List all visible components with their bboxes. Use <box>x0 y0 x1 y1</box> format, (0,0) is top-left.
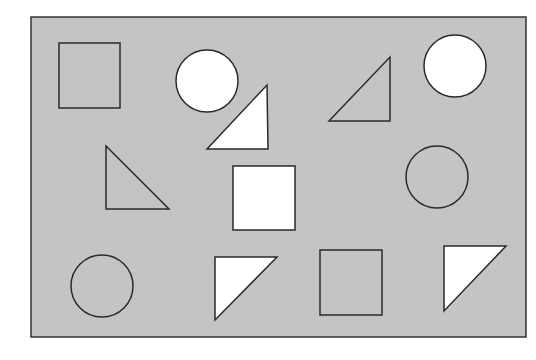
gray-square-square-3 <box>320 250 382 315</box>
white-square-square-2 <box>233 166 295 230</box>
gray-square-square-1 <box>59 43 120 108</box>
white-circle-circle-1 <box>176 50 238 112</box>
gray-circle-circle-3 <box>406 146 468 208</box>
shapes-diagram <box>0 0 536 360</box>
gray-circle-circle-4 <box>71 255 133 317</box>
white-circle-circle-2 <box>424 35 486 97</box>
